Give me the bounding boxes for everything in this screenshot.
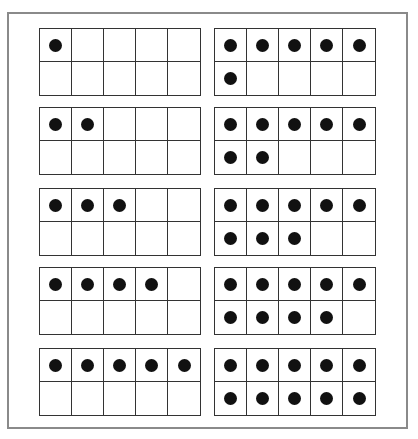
ten-frame-cell	[247, 189, 279, 222]
ten-frame-cell	[136, 141, 168, 174]
ten-frame-cell	[279, 222, 311, 255]
ten-frame-cell	[279, 29, 311, 62]
ten-frame-cell	[311, 301, 343, 334]
ten-frame-cell	[104, 141, 136, 174]
counter-dot-icon	[353, 39, 366, 52]
ten-frame-cell	[343, 189, 375, 222]
ten-frame-cell	[311, 62, 343, 95]
counter-dot-icon	[256, 311, 269, 324]
ten-frame-cell	[247, 62, 279, 95]
ten-frame-cell	[136, 268, 168, 301]
counter-dot-icon	[353, 118, 366, 131]
ten-frame-cell	[247, 268, 279, 301]
counter-dot-icon	[224, 118, 237, 131]
ten-frame-cell	[40, 268, 72, 301]
counter-dot-icon	[224, 39, 237, 52]
ten-frame-cell	[279, 349, 311, 382]
ten-frame-cell	[215, 141, 247, 174]
ten-frame-cell	[343, 108, 375, 141]
ten-frame-cell	[104, 108, 136, 141]
ten-frame-cell	[311, 382, 343, 415]
counter-dot-icon	[113, 278, 126, 291]
counter-dot-icon	[224, 311, 237, 324]
counter-dot-icon	[256, 151, 269, 164]
ten-frame-cell	[72, 268, 104, 301]
ten-frame-cell	[40, 29, 72, 62]
ten-frame-cell	[40, 62, 72, 95]
ten-frame-cell	[343, 29, 375, 62]
ten-frame-cell	[72, 222, 104, 255]
ten-frame-cell	[311, 141, 343, 174]
ten-frame-cell	[168, 29, 200, 62]
counter-dot-icon	[256, 232, 269, 245]
counter-dot-icon	[320, 392, 333, 405]
counter-dot-icon	[145, 359, 158, 372]
counter-dot-icon	[145, 278, 158, 291]
counter-dot-icon	[288, 118, 301, 131]
ten-frame-cell	[311, 268, 343, 301]
ten-frame-cell	[40, 382, 72, 415]
counter-dot-icon	[81, 278, 94, 291]
ten-frame-cell	[279, 301, 311, 334]
ten-frame-cell	[40, 108, 72, 141]
ten-frame-cell	[279, 108, 311, 141]
ten-frame-cell	[343, 222, 375, 255]
ten-frame-9	[214, 267, 376, 335]
ten-frame-cell	[279, 62, 311, 95]
counter-dot-icon	[49, 359, 62, 372]
ten-frame-cell	[247, 301, 279, 334]
ten-frame-cell	[343, 268, 375, 301]
ten-frame-cell	[279, 382, 311, 415]
counter-dot-icon	[49, 118, 62, 131]
counter-dot-icon	[81, 359, 94, 372]
ten-frame-cell	[136, 301, 168, 334]
counter-dot-icon	[178, 359, 191, 372]
ten-frame-cell	[72, 349, 104, 382]
counter-dot-icon	[288, 311, 301, 324]
ten-frame-cell	[343, 349, 375, 382]
counter-dot-icon	[320, 118, 333, 131]
counter-dot-icon	[288, 199, 301, 212]
counter-dot-icon	[224, 392, 237, 405]
ten-frame-cell	[40, 222, 72, 255]
ten-frame-cell	[247, 382, 279, 415]
ten-frame-cell	[136, 382, 168, 415]
counter-dot-icon	[224, 72, 237, 85]
ten-frame-cell	[136, 108, 168, 141]
counter-dot-icon	[49, 199, 62, 212]
counter-dot-icon	[288, 39, 301, 52]
ten-frame-cell	[168, 349, 200, 382]
ten-frame-cell	[168, 268, 200, 301]
ten-frame-cell	[40, 301, 72, 334]
counter-dot-icon	[353, 359, 366, 372]
ten-frame-cell	[168, 189, 200, 222]
ten-frame-cell	[168, 141, 200, 174]
ten-frame-8	[214, 188, 376, 256]
counter-dot-icon	[288, 232, 301, 245]
ten-frame-cell	[311, 108, 343, 141]
counter-dot-icon	[256, 278, 269, 291]
ten-frame-cell	[343, 382, 375, 415]
counter-dot-icon	[353, 199, 366, 212]
ten-frame-cell	[72, 62, 104, 95]
ten-frame-cell	[168, 108, 200, 141]
ten-frame-cell	[343, 141, 375, 174]
ten-frame-cell	[215, 349, 247, 382]
ten-frame-3	[39, 188, 201, 256]
ten-frame-2	[39, 107, 201, 175]
counter-dot-icon	[320, 359, 333, 372]
ten-frame-cell	[168, 301, 200, 334]
counter-dot-icon	[320, 199, 333, 212]
ten-frame-cell	[343, 301, 375, 334]
ten-frame-cell	[247, 141, 279, 174]
ten-frame-cell	[136, 62, 168, 95]
ten-frame-4	[39, 267, 201, 335]
counter-dot-icon	[256, 118, 269, 131]
counter-dot-icon	[320, 39, 333, 52]
counter-dot-icon	[81, 118, 94, 131]
counter-dot-icon	[113, 359, 126, 372]
counter-dot-icon	[49, 39, 62, 52]
ten-frame-cell	[104, 29, 136, 62]
ten-frame-cell	[104, 62, 136, 95]
ten-frame-cell	[104, 222, 136, 255]
